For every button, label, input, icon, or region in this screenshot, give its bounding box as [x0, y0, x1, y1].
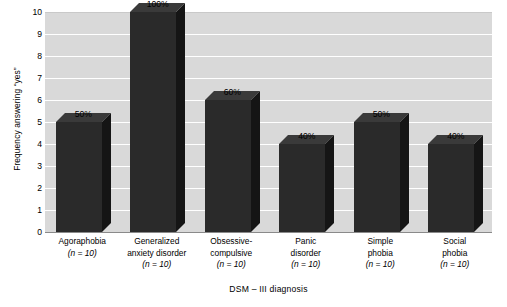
x-axis-category-label: Agoraphobia(n = 10)	[45, 236, 120, 259]
x-axis-category-label: Panicdisorder(n = 10)	[269, 236, 344, 271]
y-axis-tick-labels: 109876543210	[20, 12, 42, 232]
gridline	[45, 188, 492, 189]
bar-front-face	[56, 122, 102, 232]
y-axis-tick-label: 9	[20, 30, 42, 39]
category-name-line: Generalized	[120, 236, 195, 248]
bar[interactable]	[279, 144, 334, 232]
category-sample-size: (n = 10)	[343, 259, 418, 271]
y-axis-tick-label: 4	[20, 140, 42, 149]
bar-value-label: 40%	[273, 131, 340, 141]
category-name-line: Panic	[269, 236, 344, 248]
bar-front-face	[428, 144, 474, 232]
category-name-line: anxiety disorder	[120, 248, 195, 260]
x-axis-category-label: Simplephobia(n = 10)	[343, 236, 418, 271]
gridline	[45, 56, 492, 57]
bar-value-label: 50%	[348, 109, 415, 119]
y-axis-tick-label: 5	[20, 118, 42, 127]
gridline	[45, 122, 492, 123]
bar-front-face	[205, 100, 251, 232]
category-name-line: compulsive	[194, 248, 269, 260]
x-axis-category-label: Obsessive-compulsive(n = 10)	[194, 236, 269, 271]
x-axis-category-labels: Agoraphobia(n = 10)Generalizedanxiety di…	[45, 236, 492, 282]
bar[interactable]	[56, 122, 111, 232]
y-axis-tick-label: 3	[20, 162, 42, 171]
bar[interactable]	[428, 144, 483, 232]
y-axis-tick-label: 0	[20, 228, 42, 237]
y-axis-tick-label: 10	[20, 8, 42, 17]
category-sample-size: (n = 10)	[194, 259, 269, 271]
bar-front-face	[130, 12, 176, 232]
category-sample-size: (n = 10)	[120, 259, 195, 271]
y-axis-tick-label: 8	[20, 52, 42, 61]
x-axis-title: DSM – III diagnosis	[45, 284, 492, 294]
gridline	[45, 78, 492, 79]
y-axis-tick-label: 1	[20, 206, 42, 215]
bar-value-label: 60%	[199, 87, 266, 97]
category-name-line: phobia	[418, 248, 493, 260]
category-name-line: Agoraphobia	[45, 236, 120, 248]
gridline	[45, 210, 492, 211]
y-axis-tick-label: 6	[20, 96, 42, 105]
gridline	[45, 100, 492, 101]
x-axis-category-label: Generalizedanxiety disorder(n = 10)	[120, 236, 195, 271]
x-axis-category-label: Socialphobia(n = 10)	[418, 236, 493, 271]
category-name-line: disorder	[269, 248, 344, 260]
gridline	[45, 34, 492, 35]
bar-value-label: 50%	[50, 109, 117, 119]
bar-chart-figure: Frequency answering “yes” 109876543210 5…	[0, 0, 507, 307]
category-name-line: Obsessive-	[194, 236, 269, 248]
y-axis-tick-label: 7	[20, 74, 42, 83]
category-sample-size: (n = 10)	[269, 259, 344, 271]
bar-front-face	[354, 122, 400, 232]
category-sample-size: (n = 10)	[45, 248, 120, 260]
category-name-line: phobia	[343, 248, 418, 260]
bar-value-label: 40%	[422, 131, 489, 141]
bar-value-label: 100%	[124, 0, 191, 9]
bar[interactable]	[205, 100, 260, 232]
bar[interactable]	[130, 12, 185, 232]
gridline	[45, 166, 492, 167]
bar-front-face	[279, 144, 325, 232]
y-axis-tick-label: 2	[20, 184, 42, 193]
gridline	[45, 144, 492, 145]
category-name-line: Social	[418, 236, 493, 248]
x-axis-line	[45, 232, 492, 233]
gridline	[45, 12, 492, 13]
category-name-line: Simple	[343, 236, 418, 248]
category-sample-size: (n = 10)	[418, 259, 493, 271]
bar[interactable]	[354, 122, 409, 232]
plot-area: 50%100%60%40%50%40%	[45, 12, 492, 232]
